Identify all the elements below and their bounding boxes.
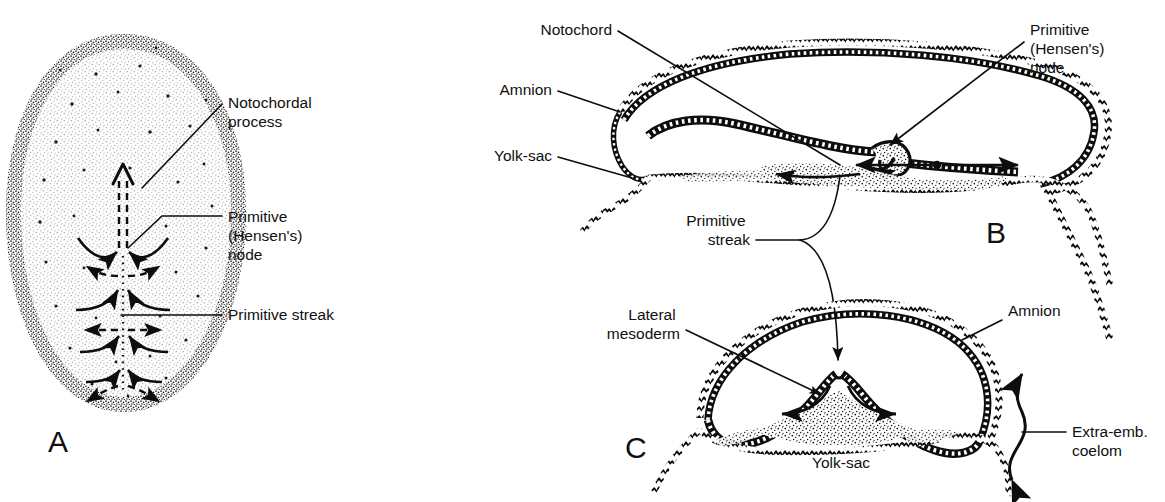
panel-letter-b: B [986,216,1006,249]
label-yolk-sac-b: Yolk-sac [494,147,552,164]
label-primitive-streak-a: Primitive streak [228,306,334,323]
panel-letter-c: C [625,431,647,464]
label-amnion-b: Amnion [499,81,552,98]
label-notochord-b: Notochord [540,21,612,38]
gastrulation-figure: Notochordal process Primitive (Hensen's)… [0,0,1165,502]
label-amnion-c: Amnion [1008,302,1061,319]
panel-letter-a: A [48,425,68,458]
label-yolk-sac-c: Yolk-sac [812,454,870,471]
figure-canvas: Notochordal process Primitive (Hensen's)… [0,0,1165,502]
